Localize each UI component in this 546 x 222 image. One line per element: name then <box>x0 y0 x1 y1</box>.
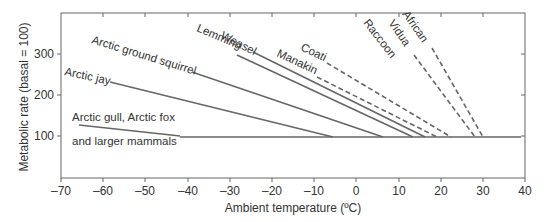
y-tick-label: 100 <box>34 129 54 143</box>
y-ticks <box>57 54 525 136</box>
series-line-arctic-jay <box>110 82 333 137</box>
x-tick-label: –50 <box>135 184 155 198</box>
x-tick-label: –20 <box>262 184 282 198</box>
y-tick-labels: 100 200 300 <box>34 47 54 143</box>
series-line-raccoon <box>414 55 475 137</box>
x-ticks <box>61 13 525 182</box>
metabolic-rate-chart: –70 –60 –50 –40 –30 –20 –10 0 10 20 30 4… <box>0 0 546 222</box>
x-tick-label: 20 <box>434 184 448 198</box>
series-line-arctic-ground-squirrel <box>192 72 383 137</box>
series-line-manakin <box>317 77 437 137</box>
x-tick-label: –40 <box>178 184 198 198</box>
x-tick-label: –10 <box>304 184 324 198</box>
x-tick-label: –70 <box>51 184 71 198</box>
series-line-african-vidua <box>432 48 483 137</box>
plot-frame <box>61 13 525 178</box>
x-tick-label: 0 <box>353 184 360 198</box>
label-larger-mammals: and larger mammals <box>72 135 177 147</box>
y-tick-label: 200 <box>34 88 54 102</box>
x-tick-label: 30 <box>476 184 490 198</box>
x-tick-label: –30 <box>220 184 240 198</box>
y-axis-title: Metabolic rate (basal = 100) <box>17 22 31 171</box>
x-tick-labels: –70 –60 –50 –40 –30 –20 –10 0 10 20 30 4… <box>51 184 532 198</box>
x-tick-label: 40 <box>518 184 532 198</box>
x-tick-label: –60 <box>93 184 113 198</box>
label-arctic-jay: Arctic jay <box>64 65 112 86</box>
label-arctic-ground-squirrel: Arctic ground squirrel <box>90 33 197 76</box>
label-arctic-gull: Arctic gull, Arctic fox <box>72 111 175 123</box>
x-tick-label: 10 <box>392 184 406 198</box>
y-tick-label: 300 <box>34 47 54 61</box>
x-axis-title: Ambient temperature (ºC) <box>225 201 361 215</box>
